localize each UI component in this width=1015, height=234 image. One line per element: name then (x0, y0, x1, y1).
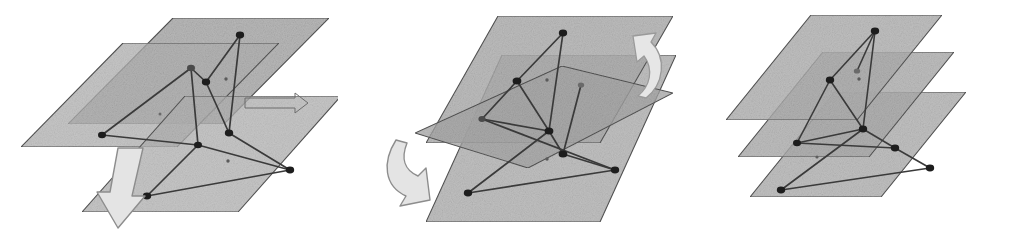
node-g (286, 167, 294, 174)
node-a (236, 32, 244, 39)
node-f (194, 142, 202, 148)
node-a (559, 30, 567, 37)
panel-rotating-layers (338, 0, 676, 234)
node-h (578, 82, 584, 87)
node-small-1 (857, 77, 860, 80)
figure-root (0, 0, 1015, 234)
node-d (793, 140, 801, 146)
node-b (187, 65, 195, 71)
panel-1-planes (21, 18, 338, 212)
node-c (545, 127, 554, 134)
node-e (98, 132, 106, 138)
node-small-2 (545, 157, 548, 160)
node-b (513, 77, 522, 84)
node-e (559, 150, 568, 157)
node-small-3 (226, 159, 229, 162)
node-b (826, 77, 834, 84)
node-d (225, 130, 233, 137)
node-small-1 (224, 77, 227, 80)
node-h (854, 68, 860, 73)
node-c (202, 79, 210, 86)
node-small-1 (545, 78, 548, 81)
node-f (611, 167, 619, 174)
panel-3-canvas (677, 0, 1015, 234)
node-f (926, 165, 934, 172)
node-small-2 (159, 113, 162, 116)
node-c (859, 126, 867, 133)
panel-initial-offset-layers (0, 0, 338, 234)
rotate-arrow-left-icon (387, 140, 430, 206)
node-g (464, 190, 472, 197)
node-small-2 (815, 155, 818, 158)
node-a (871, 28, 879, 35)
node-d (478, 116, 485, 122)
node-e (891, 145, 899, 152)
panel-1-canvas (0, 0, 338, 234)
node-g (777, 187, 785, 194)
panel-2-canvas (338, 0, 676, 234)
panel-aligned-parallel-layers (677, 0, 1015, 234)
